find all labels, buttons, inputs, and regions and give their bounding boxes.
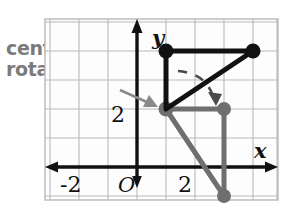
coordinate-plane-svg: y x -2 2 2 O	[0, 0, 296, 215]
x-axis-label: x	[253, 138, 267, 163]
image-vertex-bottom	[217, 189, 231, 203]
preimage-vertex-top-right	[246, 44, 261, 59]
x-tick-label-2: 2	[178, 172, 192, 197]
y-tick-label-2: 2	[111, 102, 125, 127]
image-vertex-right	[217, 102, 231, 116]
x-tick-label-neg2: -2	[60, 172, 81, 197]
origin-label: O	[118, 173, 135, 197]
preimage-vertex-top-left	[159, 44, 174, 59]
rotation-figure: center of rotation	[0, 0, 296, 215]
